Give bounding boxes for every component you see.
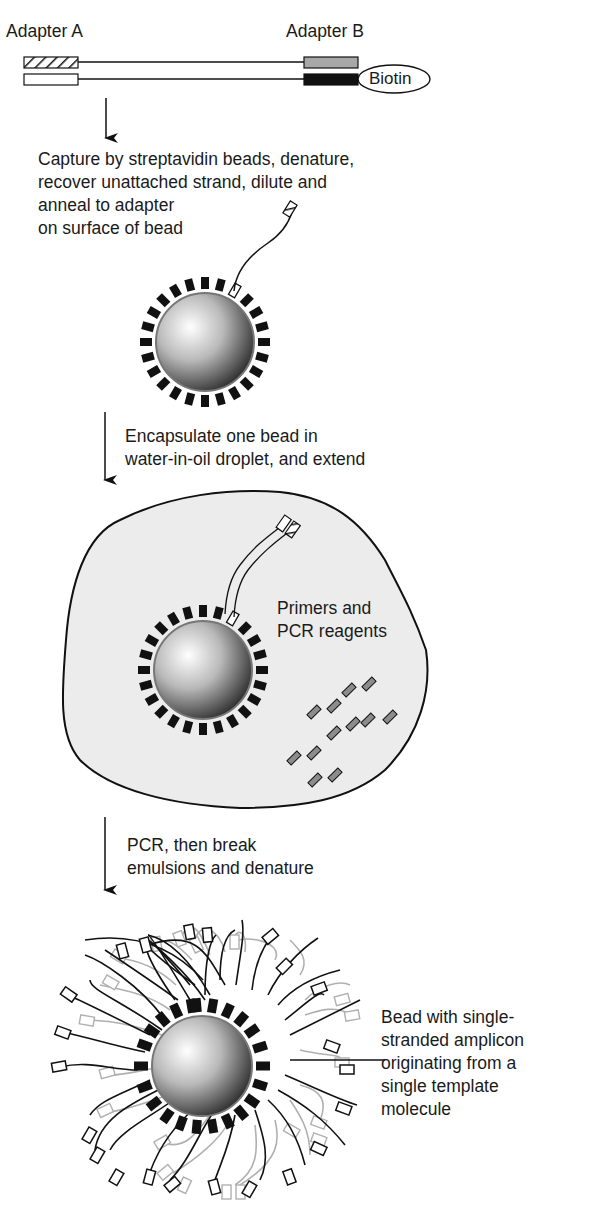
strand-end-adapter	[283, 201, 297, 217]
step1-line: Capture by streptavidin beads, denature,	[38, 148, 354, 170]
step1-line: on surface of bead	[38, 217, 183, 239]
step1-line: recover unattached strand, dilute and	[38, 171, 327, 193]
adapter-b-bottom	[304, 74, 358, 85]
step3-line: emulsions and denature	[127, 857, 314, 879]
result-line: molecule	[381, 1098, 451, 1120]
adapter-a-label: Adapter A	[6, 20, 83, 42]
droplet-label-line: PCR reagents	[277, 620, 387, 642]
droplet-label-line: Primers and	[277, 597, 371, 619]
annealed-strand	[234, 212, 292, 291]
adapter-a-bottom	[24, 74, 78, 85]
result-line: originating from a	[381, 1052, 516, 1074]
step2-line: Encapsulate one bead in	[125, 425, 318, 447]
step2-line: water-in-oil droplet, and extend	[125, 448, 365, 470]
bead-amplified	[51, 920, 385, 1199]
result-line: single template	[381, 1075, 499, 1097]
adapter-b-top	[304, 57, 358, 68]
adapter-b-label: Adapter B	[286, 20, 364, 42]
result-line: Bead with single-	[381, 1006, 514, 1028]
biotin-label: Biotin	[369, 68, 412, 90]
step3-line: PCR, then break	[127, 834, 256, 856]
adapter-a-top	[24, 57, 78, 68]
result-line: stranded amplicon	[381, 1029, 524, 1051]
step1-line: anneal to adapter	[38, 194, 174, 216]
droplet	[63, 491, 428, 808]
